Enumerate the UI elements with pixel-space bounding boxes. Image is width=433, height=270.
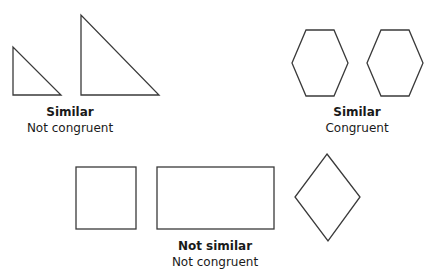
large-triangle bbox=[81, 15, 159, 95]
hexagons-label: Similar Congruent bbox=[325, 106, 388, 134]
similarity-diagram bbox=[0, 0, 433, 270]
hexagon-right bbox=[367, 30, 423, 96]
hexagons-congruence: Congruent bbox=[325, 122, 388, 134]
hexagons-similarity: Similar bbox=[325, 106, 388, 118]
triangles-label: Similar Not congruent bbox=[27, 106, 113, 134]
small-triangle bbox=[13, 47, 61, 95]
quadrilaterals-label: Not similar Not congruent bbox=[172, 240, 258, 268]
rhombus bbox=[295, 154, 360, 241]
quadrilaterals-similarity: Not similar bbox=[172, 240, 258, 252]
quadrilaterals-congruence: Not congruent bbox=[172, 256, 258, 268]
square bbox=[76, 167, 136, 229]
hexagon-left bbox=[292, 30, 348, 96]
triangles-congruence: Not congruent bbox=[27, 122, 113, 134]
triangles-similarity: Similar bbox=[27, 106, 113, 118]
rectangle bbox=[157, 167, 274, 229]
